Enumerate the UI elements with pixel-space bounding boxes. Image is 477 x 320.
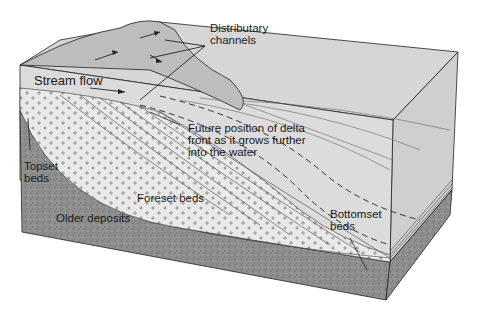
- label-foreset-beds: Foreset beds: [137, 192, 204, 204]
- label-distributary-channels: Distributary channels: [210, 22, 268, 46]
- label-topset-beds: Topset beds: [24, 160, 58, 184]
- delta-diagram: Distributary channels Stream flow Future…: [0, 0, 477, 320]
- label-stream-flow: Stream flow: [34, 74, 103, 88]
- delta-block-illustration: [0, 0, 477, 320]
- label-older-deposits: Older deposits: [56, 212, 130, 224]
- label-future-position: Future position of delta front as it gro…: [188, 122, 306, 158]
- label-bottomset-beds: Bottomset beds: [330, 208, 382, 232]
